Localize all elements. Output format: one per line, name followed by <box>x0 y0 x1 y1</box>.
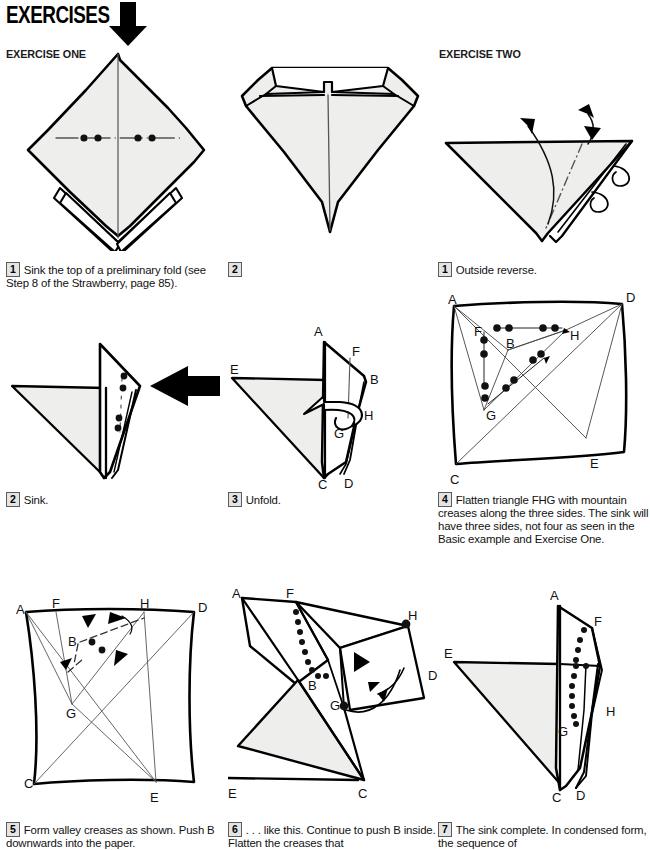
label-A: A <box>448 292 457 307</box>
step-text: Form valley creases as shown. Push B dow… <box>6 824 215 849</box>
step-text: Flatten triangle FHG with mountain creas… <box>438 494 648 545</box>
step-number-badge: 5 <box>6 822 20 837</box>
exercise-two-heading: EXERCISE TWO <box>439 48 521 60</box>
caption-ex1-step3: 3Unfold. <box>228 492 440 507</box>
label-D: D <box>428 668 437 683</box>
caption-ex1-step1: 1Sink the top of a preliminary fold (see… <box>6 262 218 290</box>
caption-ex2-step6: 6. . . like this. Continue to push B ins… <box>228 822 440 850</box>
label-H: H <box>364 408 373 423</box>
figure-side-view-sink <box>8 332 223 488</box>
step-number-badge: 6 <box>228 822 242 837</box>
label-G: G <box>558 724 568 739</box>
label-A: A <box>550 588 559 603</box>
label-C: C <box>318 477 327 490</box>
figure-crease-pattern-square: A D F B H G C E <box>436 288 650 490</box>
step-text: Sink. <box>24 494 49 506</box>
step-text: The sink complete. In condensed form, th… <box>438 824 646 849</box>
label-H: H <box>570 328 579 343</box>
step-text: Sink the top of a preliminary fold (see … <box>6 264 206 289</box>
step-number-badge: 7 <box>438 822 452 837</box>
label-C: C <box>358 786 367 801</box>
label-G: G <box>486 408 496 423</box>
figure-valley-creases-square: A F H D B G C E <box>4 592 224 811</box>
push-arrow-icon <box>150 366 220 406</box>
step-text: Unfold. <box>246 494 281 506</box>
label-F: F <box>352 344 360 359</box>
label-F: F <box>286 586 294 601</box>
label-G: G <box>334 426 344 441</box>
label-F: F <box>474 324 482 339</box>
page-title: EXERCISES <box>6 4 110 27</box>
label-C: C <box>24 776 33 791</box>
caption-ex2-step7: 7The sink complete. In condensed form, t… <box>438 822 650 850</box>
down-arrow-icon <box>109 2 147 46</box>
figure-unfold-side-view: A F B E H G C D <box>228 322 433 494</box>
step-number-badge: 2 <box>6 492 20 507</box>
label-E: E <box>590 456 599 471</box>
figure-sunk-top-diamond <box>228 62 433 256</box>
label-E: E <box>230 362 239 377</box>
caption-ex1-step2b: 2Sink. <box>6 492 218 507</box>
label-A: A <box>232 586 241 601</box>
label-E: E <box>444 646 453 661</box>
label-A: A <box>16 602 25 617</box>
sink-arrow-top <box>100 0 156 52</box>
label-A: A <box>314 324 323 339</box>
caption-ex2-step1: 1Outside reverse. <box>438 262 650 277</box>
label-H: H <box>606 704 615 719</box>
label-H: H <box>140 596 149 611</box>
figure-preliminary-fold-diamond <box>8 46 228 255</box>
figure-sink-complete: A F E H G C D <box>440 586 650 810</box>
caption-ex1-step2: 2 <box>228 262 440 277</box>
step-text: Outside reverse. <box>456 264 537 276</box>
step-number-badge: 1 <box>6 262 20 277</box>
step-number-badge: 3 <box>228 492 242 507</box>
label-B: B <box>370 372 379 387</box>
label-E: E <box>228 786 237 801</box>
step-number-badge: 4 <box>438 492 452 507</box>
figure-outside-reverse-triangle <box>436 100 650 259</box>
label-H: H <box>408 608 417 623</box>
step-number-badge: 2 <box>228 262 242 277</box>
label-D: D <box>198 600 207 615</box>
label-D: D <box>576 788 585 803</box>
label-E: E <box>150 790 159 805</box>
label-B: B <box>506 336 515 351</box>
caption-ex2-step4: 4Flatten triangle FHG with mountain crea… <box>438 492 650 546</box>
label-B: B <box>308 678 317 693</box>
label-F: F <box>594 614 602 629</box>
label-F: F <box>52 596 60 611</box>
label-G: G <box>330 698 340 713</box>
step-number-badge: 1 <box>438 262 452 277</box>
figure-pushing-b-inside: A F H B G D E C <box>228 586 443 810</box>
label-D: D <box>626 290 635 305</box>
label-B: B <box>68 634 77 649</box>
label-G: G <box>66 706 76 721</box>
step-text: . . . like this. Continue to push B insi… <box>228 824 436 849</box>
label-C: C <box>450 472 459 486</box>
label-C: C <box>552 790 561 805</box>
caption-ex2-step5: 5Form valley creases as shown. Push B do… <box>6 822 218 850</box>
label-D: D <box>344 476 353 490</box>
